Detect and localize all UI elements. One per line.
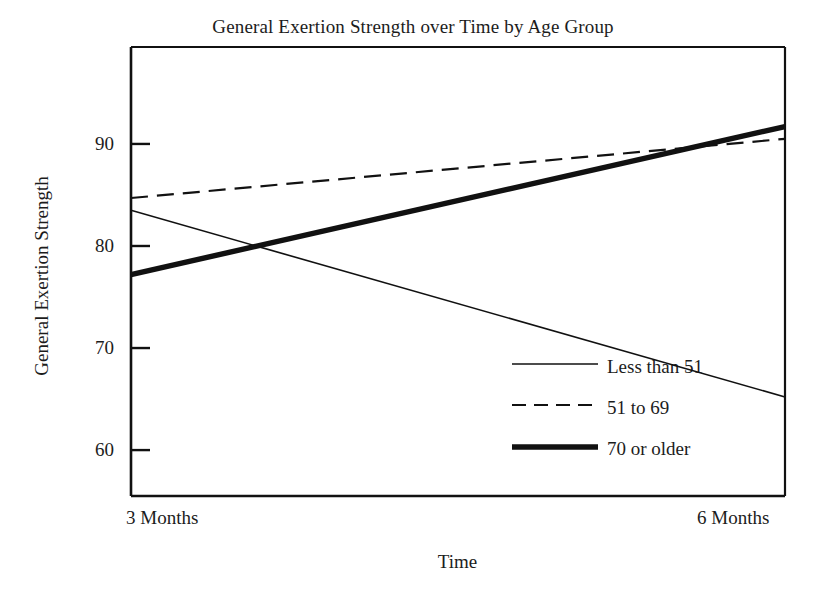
legend-swatches xyxy=(512,364,598,447)
axis-frame xyxy=(131,47,785,496)
chart-figure: General Exertion Strength over Time by A… xyxy=(0,0,826,589)
plot-canvas xyxy=(0,0,826,589)
data-series-group xyxy=(131,127,785,397)
series-line-less-than-51 xyxy=(131,210,785,397)
series-line-70-or-older xyxy=(131,127,785,275)
y-tick-marks xyxy=(131,144,150,450)
